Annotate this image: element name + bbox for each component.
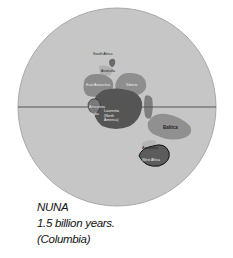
label-west-africa: West Africa: [142, 158, 160, 162]
label-baltica: Baltica: [163, 125, 178, 130]
label-amazonia-lower: Amazonia: [142, 146, 158, 150]
caption: NUNA 1.5 billion years. (Columbia): [37, 199, 115, 247]
label-australia: Australia: [101, 69, 115, 73]
label-india: India: [91, 112, 99, 116]
caption-title: NUNA: [37, 199, 115, 215]
label-east-antarctica: East Antarctica: [86, 83, 110, 87]
label-south-africa: South Africa: [93, 52, 112, 56]
caption-alt-name: (Columbia): [37, 231, 115, 247]
caption-age: 1.5 billion years.: [37, 215, 115, 231]
label-amazonia: Amazonia: [89, 105, 105, 109]
label-siberia: Siberia: [126, 83, 137, 87]
globe-map: South Africa Australia East Antarctica S…: [0, 0, 233, 258]
